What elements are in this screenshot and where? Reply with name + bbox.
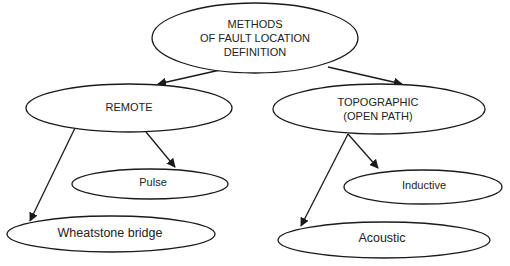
edge-topographic-acoustic — [301, 134, 348, 226]
inductive-label-text: Inductive — [402, 179, 446, 193]
remote-label-text: REMOTE — [105, 101, 152, 115]
diagram-canvas: METHODS OF FAULT LOCATION DEFINITION REM… — [0, 0, 510, 266]
pulse-label-text: Pulse — [139, 176, 167, 190]
remote-label: REMOTE — [105, 101, 152, 115]
wheatstone-label-text: Wheatstone bridge — [58, 226, 163, 242]
inductive-label: Inductive — [402, 179, 446, 193]
root-label-line2: OF FAULT LOCATION — [200, 32, 310, 46]
topographic-label-line1: TOPOGRAPHIC — [337, 96, 418, 110]
edge-root-remote — [158, 70, 220, 84]
edge-remote-wheatstone — [30, 128, 75, 221]
wheatstone-label: Wheatstone bridge — [58, 226, 163, 242]
acoustic-label-text: Acoustic — [358, 231, 405, 247]
topographic-label: TOPOGRAPHIC (OPEN PATH) — [337, 96, 418, 124]
pulse-label: Pulse — [139, 176, 167, 190]
edge-remote-pulse — [146, 132, 175, 167]
root-label: METHODS OF FAULT LOCATION DEFINITION — [200, 18, 310, 59]
root-label-line3: DEFINITION — [200, 46, 310, 60]
acoustic-label: Acoustic — [358, 231, 405, 247]
edge-root-topographic — [328, 67, 402, 84]
edge-topographic-inductive — [348, 134, 378, 168]
topographic-label-line2: (OPEN PATH) — [337, 110, 418, 124]
root-label-line1: METHODS — [200, 18, 310, 32]
